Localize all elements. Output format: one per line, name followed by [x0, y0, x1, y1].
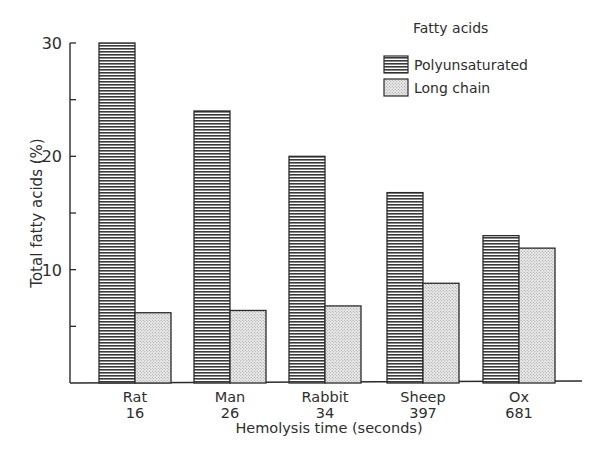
- legend-label-long-chain: Long chain: [414, 80, 490, 96]
- x-category-label: Man: [215, 389, 246, 405]
- y-axis: 102030 Total fatty acids (%): [28, 34, 76, 383]
- legend-swatch-long-chain: [384, 79, 408, 96]
- bar-rat-long-chain: [135, 313, 171, 383]
- legend: Fatty acids Polyunsaturated Long chain: [384, 20, 528, 96]
- bar-ox-polyunsaturated: [483, 236, 519, 383]
- x-category-sublabel: 681: [505, 405, 533, 421]
- legend-title: Fatty acids: [413, 20, 488, 36]
- bar-group-ox: [483, 236, 555, 383]
- x-axis-label: Hemolysis time (seconds): [235, 420, 422, 436]
- bar-sheep-polyunsaturated: [387, 193, 423, 383]
- legend-label-polyunsaturated: Polyunsaturated: [414, 57, 528, 73]
- bar-man-polyunsaturated: [194, 111, 230, 383]
- bar-sheep-long-chain: [423, 283, 459, 383]
- bar-rat-polyunsaturated: [99, 43, 135, 383]
- y-axis-label: Total fatty acids (%): [28, 138, 46, 288]
- bar-chart: 102030 Total fatty acids (%) Rat16Man26R…: [0, 0, 603, 454]
- x-category-label: Ox: [509, 389, 529, 405]
- x-category-sublabel: 16: [126, 405, 144, 421]
- bar-ox-long-chain: [519, 248, 555, 383]
- x-category-label: Rabbit: [302, 389, 349, 405]
- bar-group-man: [194, 111, 266, 383]
- bar-man-long-chain: [230, 310, 266, 383]
- bar-rabbit-long-chain: [325, 306, 361, 383]
- x-category-sublabel: 397: [409, 405, 437, 421]
- x-category-sublabel: 34: [316, 405, 334, 421]
- bar-rabbit-polyunsaturated: [289, 156, 325, 383]
- legend-item-polyunsaturated: Polyunsaturated: [384, 56, 528, 73]
- legend-item-long-chain: Long chain: [384, 79, 490, 96]
- x-category-label: Rat: [123, 389, 148, 405]
- bar-group-rat: [99, 43, 171, 383]
- bar-group-rabbit: [289, 156, 361, 383]
- x-category-label: Sheep: [400, 389, 445, 405]
- legend-swatch-polyunsaturated: [384, 56, 408, 73]
- x-category-sublabel: 26: [221, 405, 239, 421]
- x-axis: Rat16Man26Rabbit34Sheep397Ox681 Hemolysi…: [70, 381, 582, 436]
- y-tick-label: 30: [42, 34, 62, 53]
- bar-group-sheep: [387, 193, 459, 383]
